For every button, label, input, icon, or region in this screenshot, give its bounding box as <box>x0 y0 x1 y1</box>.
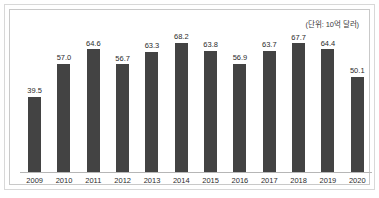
x-axis-tick-label: 2010 <box>49 176 78 185</box>
x-axis-labels: 2009 2010 2011 2012 2013 2014 2015 2016 … <box>20 176 372 185</box>
x-axis-tick-label: 2017 <box>255 176 284 185</box>
x-axis-tick-label: 2016 <box>225 176 254 185</box>
bar-column: 67.7 <box>284 32 313 172</box>
bar-value-label: 64.6 <box>86 39 101 48</box>
bar-value-label: 64.4 <box>321 39 336 48</box>
chart-screenshot: (단위: 10억 달러) 39.5 57.0 64.6 56.7 63.3 <box>0 0 379 198</box>
bar-column: 63.7 <box>255 32 284 172</box>
bar-value-label: 57.0 <box>57 53 72 62</box>
bar-series: 39.5 57.0 64.6 56.7 63.3 68.2 <box>20 32 372 172</box>
bar-rect <box>28 97 41 172</box>
bar-value-label: 63.8 <box>203 40 218 49</box>
bar-value-label: 56.7 <box>115 54 130 63</box>
bar-rect <box>263 51 276 172</box>
bar-value-label: 63.3 <box>145 41 160 50</box>
bar-value-label: 56.9 <box>233 53 248 62</box>
bar-column: 63.8 <box>196 32 225 172</box>
bar-rect <box>204 51 217 172</box>
x-axis-tick-label: 2013 <box>137 176 166 185</box>
x-axis-tick-label: 2011 <box>79 176 108 185</box>
bar-rect <box>145 52 158 172</box>
bar-column: 57.0 <box>49 32 78 172</box>
bar-value-label: 68.2 <box>174 32 189 41</box>
chart-plot-frame: (단위: 10억 달러) 39.5 57.0 64.6 56.7 63.3 <box>9 9 370 185</box>
bar-column: 50.1 <box>343 32 372 172</box>
bar-rect <box>233 64 246 172</box>
bar-column: 64.4 <box>313 32 342 172</box>
bar-value-label: 39.5 <box>27 86 42 95</box>
x-axis-tick-label: 2019 <box>313 176 342 185</box>
bar-value-label: 67.7 <box>291 33 306 42</box>
bar-column: 64.6 <box>79 32 108 172</box>
bar-column: 63.3 <box>137 32 166 172</box>
x-axis-tick-label: 2015 <box>196 176 225 185</box>
bar-column: 39.5 <box>20 32 49 172</box>
bar-rect <box>351 77 364 172</box>
bar-rect <box>321 49 334 172</box>
bar-rect <box>116 64 129 172</box>
bar-column: 56.9 <box>225 32 254 172</box>
bar-rect <box>87 49 100 172</box>
bar-column: 56.7 <box>108 32 137 172</box>
bar-rect <box>175 43 188 173</box>
x-axis-tick-label: 2020 <box>343 176 372 185</box>
x-axis-tick-label: 2009 <box>20 176 49 185</box>
bar-value-label: 63.7 <box>262 40 277 49</box>
x-axis-baseline <box>20 172 372 173</box>
unit-note-label: (단위: 10억 달러) <box>306 18 359 29</box>
bar-value-label: 50.1 <box>350 66 365 75</box>
x-axis-tick-label: 2014 <box>167 176 196 185</box>
bar-column: 68.2 <box>167 32 196 172</box>
x-axis-tick-label: 2012 <box>108 176 137 185</box>
x-axis-tick-label: 2018 <box>284 176 313 185</box>
bar-rect <box>292 43 305 172</box>
bar-rect <box>57 64 70 173</box>
